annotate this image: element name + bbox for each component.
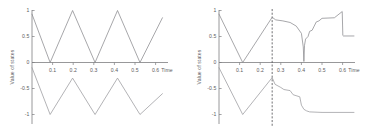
y-axis-label-left: Value of states (9, 49, 15, 84)
x-ticklabel-left-4: 0.5 (131, 67, 138, 73)
x-ticklabel-right-1: 0.2 (257, 67, 264, 73)
y-ticklabel-right-3: -0.5 (207, 85, 216, 91)
x-ticklabel-left-5: 0.6 (152, 67, 159, 73)
y-ticklabel-left-0: 1 (27, 7, 30, 13)
y-ticklabel-left-1: 0.5 (22, 33, 29, 39)
x-ticklabel-left-3: 0.4 (111, 67, 118, 73)
plot-panel-left: 1 0.5 0 -0.5 -1 0.1 0.2 0.3 0.4 0.5 0.6 … (0, 0, 186, 135)
x-ticklabel-left-0: 0.1 (49, 67, 56, 73)
figure-container: 1 0.5 0 -0.5 -1 0.1 0.2 0.3 0.4 0.5 0.6 … (0, 0, 373, 135)
x-ticklabel-right-0: 0.1 (236, 67, 243, 73)
y-ticklabel-right-4: -1 (212, 111, 217, 117)
x-ticklabel-right-3: 0.4 (298, 67, 305, 73)
y-ticklabel-left-4: -1 (25, 111, 30, 117)
plot-labels-right: 1 0.5 0 -0.5 -1 0.1 0.2 0.3 0.4 0.5 0.6 … (187, 0, 373, 135)
plot-panel-right: 1 0.5 0 -0.5 -1 0.1 0.2 0.3 0.4 0.5 0.6 … (187, 0, 373, 135)
y-axis-label-right: Value of states (196, 49, 202, 84)
x-ticklabel-right-2: 0.3 (277, 67, 284, 73)
plot-labels-left: 1 0.5 0 -0.5 -1 0.1 0.2 0.3 0.4 0.5 0.6 … (0, 0, 186, 135)
x-ticklabel-right-4: 0.5 (318, 67, 325, 73)
y-ticklabel-right-1: 0.5 (209, 33, 216, 39)
y-ticklabel-right-2: 0 (214, 59, 217, 65)
x-ticklabel-right-5: 0.6 (339, 67, 346, 73)
x-ticklabel-left-2: 0.3 (90, 67, 97, 73)
x-axis-label-right: Time (348, 67, 360, 73)
x-axis-label-left: Time (161, 67, 173, 73)
y-ticklabel-left-3: -0.5 (20, 85, 29, 91)
y-ticklabel-right-0: 1 (214, 7, 217, 13)
y-ticklabel-left-2: 0 (27, 59, 30, 65)
x-ticklabel-left-1: 0.2 (70, 67, 77, 73)
